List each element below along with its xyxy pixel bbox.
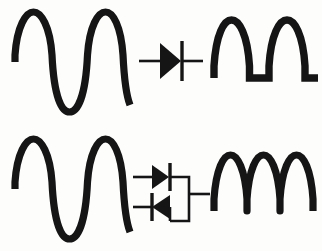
output-fullwave-path-bottom [214,155,313,211]
diode-triangle-icon [160,43,181,79]
diode-symbol [139,41,203,81]
diode-symbol-upper [133,163,170,191]
full-wave-rectifier-row [15,139,313,239]
diagram-canvas [0,0,322,251]
diode-symbol-lower [133,193,170,221]
diode-upper-triangle-icon [152,165,169,189]
sine-wave-input-top [15,12,130,112]
input-sine-path-top [15,12,130,112]
output-halfwave-path-top [214,20,318,78]
full-wave-rectified-output [214,155,313,211]
two-diode-bridge [133,163,210,221]
bridge-interconnect-wire [170,177,189,221]
input-sine-path-bottom [15,139,130,239]
rectifier-diagram [0,0,322,251]
sine-wave-input-bottom [15,139,130,239]
diode-lower-triangle-icon [152,195,170,219]
half-wave-rectified-output [214,20,318,78]
half-wave-rectifier-row [15,12,318,112]
